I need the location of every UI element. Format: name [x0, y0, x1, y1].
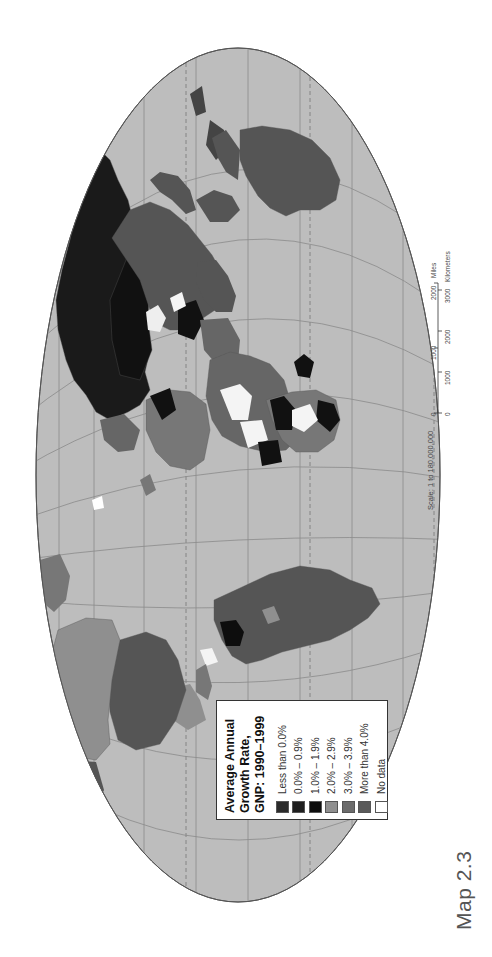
- legend-title-line-1: Average Annual: [223, 707, 238, 813]
- region-kamchatka-dark: [54, 822, 70, 840]
- scale-km-tick-2000: 2000: [444, 330, 451, 344]
- legend-title-line-2: Growth Rate,: [238, 707, 253, 813]
- legend-swatch: [342, 801, 355, 813]
- legend-item-more-than-4: More than 4.0%: [357, 707, 374, 813]
- scale-miles-label: Miles: [430, 263, 437, 278]
- map-caption: Map 2.3: [452, 851, 476, 930]
- region-alaska: [62, 760, 104, 816]
- legend-item-1-1.9: 1.0% – 1.9%: [307, 707, 324, 813]
- legend-item-3-3.9: 3.0% – 3.9%: [340, 707, 357, 813]
- legend-label: Less than 0.0%: [277, 725, 288, 794]
- legend-item-no-data: No data: [373, 707, 390, 813]
- scale-km-tick-3000: 3000: [444, 289, 451, 303]
- scale-text: Scale: 1 to 180,000,000: [426, 431, 435, 510]
- scale-miles-tick-1000: 1000: [430, 346, 437, 360]
- legend-swatch: [292, 801, 305, 813]
- legend-label: 0.0% – 0.9%: [293, 737, 304, 794]
- legend-item-2-2.9: 2.0% – 2.9%: [324, 707, 341, 813]
- legend-label: 1.0% – 1.9%: [310, 737, 321, 794]
- region-africa-dark3: [258, 440, 282, 466]
- scale-km-tick-1000: 1000: [444, 371, 451, 385]
- legend-swatch: [325, 801, 338, 813]
- legend-swatch: [309, 801, 322, 813]
- scale-km-tick-0: 0: [444, 412, 451, 416]
- legend-label: No data: [376, 759, 387, 794]
- legend-item-0-0.9: 0.0% – 0.9%: [291, 707, 308, 813]
- legend-swatch: [358, 801, 371, 813]
- legend-swatch: [276, 801, 289, 813]
- scale-miles-tick-2000: 2000: [430, 286, 437, 300]
- legend-label: 3.0% – 3.9%: [343, 737, 354, 794]
- region-canada: [46, 618, 120, 760]
- scale-miles-tick-0: 0: [430, 412, 437, 416]
- legend-title-line-3: GNP: 1990–1999: [253, 707, 268, 813]
- legend: Average Annual Growth Rate, GNP: 1990–19…: [216, 700, 388, 820]
- legend-swatch: [375, 801, 388, 813]
- legend-label: More than 4.0%: [359, 723, 370, 794]
- legend-title: Average Annual Growth Rate, GNP: 1990–19…: [223, 707, 268, 813]
- scale-km-label: Kilometers: [444, 251, 451, 282]
- legend-item-less-than-0: Less than 0.0%: [274, 707, 291, 813]
- legend-label: 2.0% – 2.9%: [326, 737, 337, 794]
